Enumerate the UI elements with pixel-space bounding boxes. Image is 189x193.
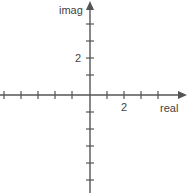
real-axis-arrow-icon xyxy=(178,91,187,99)
imag-axis xyxy=(86,1,94,193)
complex-plane-figure: imag real 2 2 xyxy=(0,0,189,193)
axes-svg xyxy=(0,0,189,193)
real-axis xyxy=(0,91,187,99)
imag-axis-label: imag xyxy=(59,4,83,16)
imag-axis-arrow-icon xyxy=(86,1,94,10)
real-axis-label: real xyxy=(160,102,178,114)
real-axis-tick-label-2: 2 xyxy=(121,101,127,113)
imag-axis-tick-label-2: 2 xyxy=(75,52,81,64)
